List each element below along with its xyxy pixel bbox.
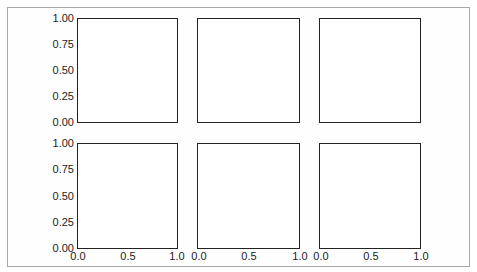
xtick-label: 0.5 <box>356 251 386 262</box>
xtick-label: 1.0 <box>406 251 436 262</box>
ytick-label: 1.00 <box>34 138 74 149</box>
xtick-label: 0.5 <box>234 251 264 262</box>
xtick-label: 0.0 <box>184 251 214 262</box>
subplot-1-2 <box>319 143 421 249</box>
ytick-label: 0.75 <box>34 164 74 175</box>
ytick-label: 0.50 <box>34 65 74 76</box>
ytick-label: 0.75 <box>34 39 74 50</box>
subplot-1-0 <box>77 143 178 249</box>
xtick-label: 0.0 <box>63 251 93 262</box>
subplot-1-1 <box>197 143 300 249</box>
ytick-label: 1.00 <box>34 13 74 24</box>
subplot-0-0 <box>77 18 178 123</box>
xtick-label: 0.0 <box>306 251 336 262</box>
xtick-label: 0.5 <box>113 251 143 262</box>
ytick-label: 0.50 <box>34 191 74 202</box>
subplot-0-1 <box>197 18 300 123</box>
ytick-label: 0.25 <box>34 91 74 102</box>
ytick-label: 0.25 <box>34 217 74 228</box>
subplot-0-2 <box>319 18 421 123</box>
ytick-label: 0.00 <box>34 117 74 128</box>
